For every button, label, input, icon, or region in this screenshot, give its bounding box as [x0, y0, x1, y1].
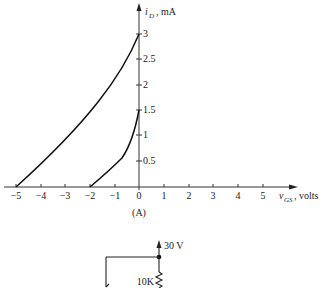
supply-arrow-icon: [157, 240, 162, 248]
circuit: 30 V 10K: [106, 240, 184, 288]
x-axis-arrow-icon: [289, 185, 298, 190]
svg-text:−1: −1: [110, 190, 121, 201]
svg-text:−3: −3: [60, 190, 71, 201]
svg-text:−4: −4: [36, 190, 47, 201]
y-axis-arrow-icon: [137, 3, 142, 11]
curve-idss-3ma: [16, 34, 139, 187]
svg-text:−5: −5: [11, 190, 22, 201]
svg-text:2: 2: [187, 190, 192, 201]
svg-text:1.5: 1.5: [143, 104, 156, 115]
y-axis-label-unit: , mA: [156, 6, 177, 17]
y-axis-label-sub: D: [148, 12, 154, 20]
x-axis-label-sub: GS: [284, 196, 293, 204]
x-axis-label-unit: , volts: [294, 190, 319, 201]
svg-text:2.5: 2.5: [143, 53, 156, 64]
svg-text:5: 5: [261, 190, 266, 201]
svg-text:1: 1: [143, 129, 148, 140]
svg-text:4: 4: [236, 190, 241, 201]
svg-text:−2: −2: [85, 190, 96, 201]
svg-text:0.5: 0.5: [143, 155, 156, 166]
figure-caption: (A): [132, 207, 146, 219]
svg-text:0: 0: [137, 190, 142, 201]
y-axis-label-var: i: [145, 6, 148, 17]
curve-idss-1p5ma: [90, 110, 139, 187]
jfet-transfer-diagram: i D , mA 0.5 1 1.5 2 2.5 3 −5 −4 −3 −2 −…: [0, 0, 321, 288]
resistor-icon: [156, 272, 162, 288]
svg-text:3: 3: [211, 190, 216, 201]
resistor-label: 10K: [137, 276, 155, 287]
svg-text:3: 3: [143, 28, 148, 39]
svg-text:1: 1: [162, 190, 167, 201]
supply-label: 30 V: [164, 240, 184, 251]
svg-text:2: 2: [143, 79, 148, 90]
